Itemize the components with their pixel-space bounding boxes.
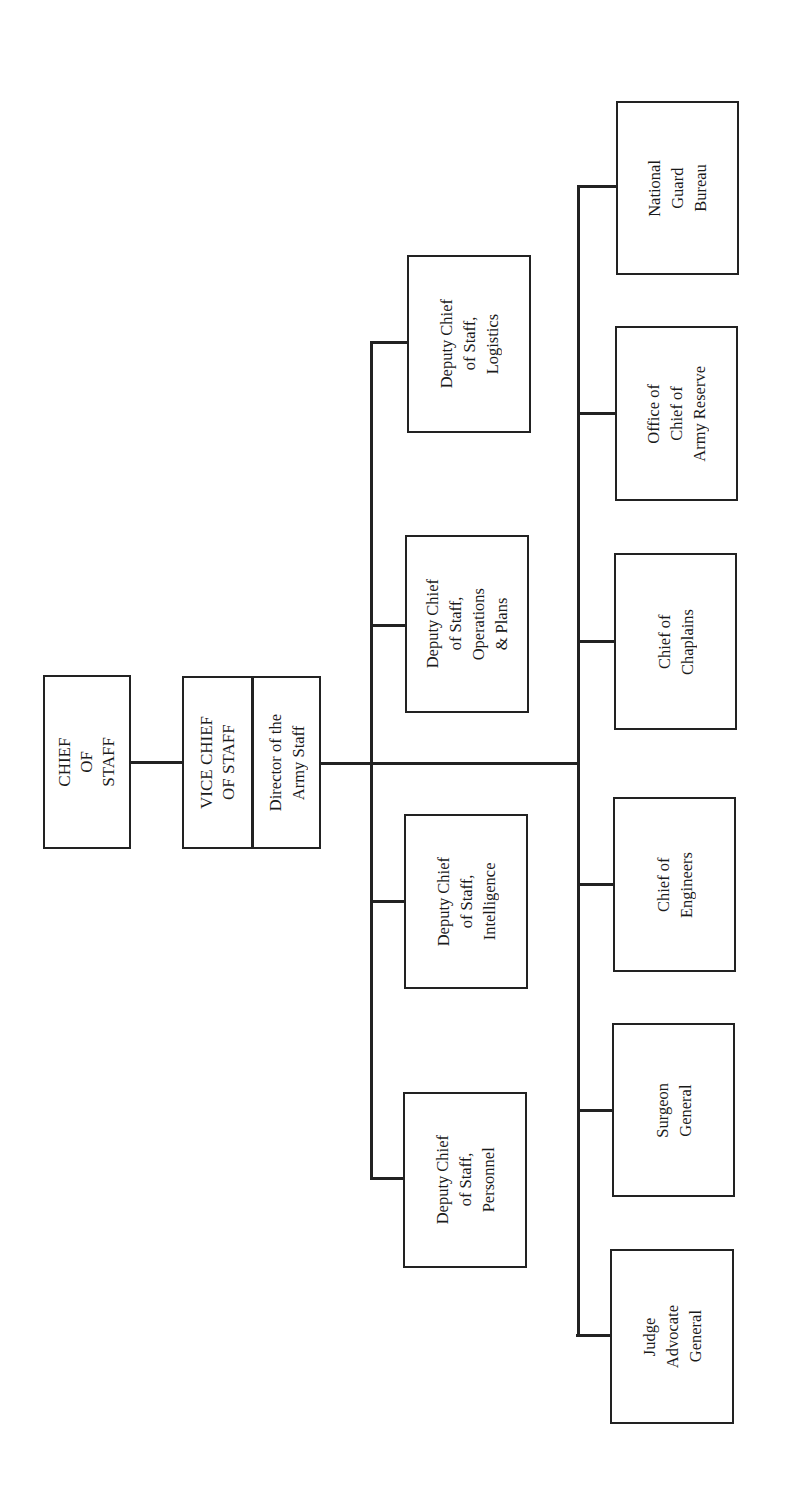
node-label: Chief of Chaplains bbox=[653, 609, 699, 675]
node-label: Chief of Engineers bbox=[652, 852, 698, 918]
node-chief-of-staff: CHIEF OF STAFF bbox=[43, 675, 131, 849]
spine-special-staff bbox=[577, 185, 580, 1337]
node-label: Judge Advocate General bbox=[638, 1305, 707, 1368]
node-surgeon-general: Surgeon General bbox=[612, 1023, 735, 1197]
connector-chief-to-vice bbox=[129, 761, 183, 764]
node-national-guard-bureau: National Guard Bureau bbox=[616, 101, 739, 275]
node-label: Deputy Chief of Staff, Personnel bbox=[431, 1135, 500, 1224]
connector-operations bbox=[370, 624, 406, 627]
node-vice-chief-of-staff: VICE CHIEF OF STAFF bbox=[184, 678, 252, 847]
connector-ocar bbox=[578, 412, 616, 415]
node-label: Deputy Chief of Staff, Operations & Plan… bbox=[421, 579, 513, 668]
connector-engineers bbox=[578, 883, 614, 886]
node-office-chief-army-reserve: Office of Chief of Army Reserve bbox=[615, 326, 738, 501]
node-dcs-intelligence: Deputy Chief of Staff, Intelligence bbox=[404, 814, 528, 989]
node-dcs-personnel: Deputy Chief of Staff, Personnel bbox=[403, 1092, 527, 1268]
node-label: Director of the Army Staff bbox=[264, 714, 310, 811]
node-label: VICE CHIEF OF STAFF bbox=[196, 716, 240, 809]
node-judge-advocate-general: Judge Advocate General bbox=[610, 1249, 734, 1424]
connector-logistics bbox=[370, 341, 408, 344]
node-label: Deputy Chief of Staff, Logistics bbox=[435, 299, 504, 388]
node-director-army-staff: Director of the Army Staff bbox=[254, 678, 319, 847]
node-label: Surgeon General bbox=[651, 1083, 697, 1138]
node-label: National Guard Bureau bbox=[643, 160, 712, 217]
connector-jag bbox=[576, 1334, 612, 1337]
node-chief-of-engineers: Chief of Engineers bbox=[613, 797, 736, 972]
org-chart: CHIEF OF STAFF VICE CHIEF OF STAFF Direc… bbox=[0, 0, 797, 1493]
node-label: Office of Chief of Army Reserve bbox=[642, 366, 711, 462]
connector-surgeon bbox=[578, 1109, 613, 1112]
node-label: CHIEF OF STAFF bbox=[54, 737, 120, 787]
node-vice-director-group: VICE CHIEF OF STAFF Director of the Army… bbox=[182, 676, 321, 849]
connector-intelligence bbox=[370, 900, 405, 903]
node-dcs-logistics: Deputy Chief of Staff, Logistics bbox=[407, 255, 531, 433]
connector-ngb bbox=[580, 185, 617, 188]
node-chief-of-chaplains: Chief of Chaplains bbox=[614, 553, 737, 730]
connector-personnel bbox=[370, 1177, 404, 1180]
spine-deputy-chiefs bbox=[370, 341, 373, 1180]
connector-main-trunk bbox=[319, 762, 580, 765]
connector-chaplains bbox=[578, 640, 615, 643]
node-label: Deputy Chief of Staff, Intelligence bbox=[432, 857, 501, 946]
node-dcs-operations-plans: Deputy Chief of Staff, Operations & Plan… bbox=[405, 535, 529, 713]
